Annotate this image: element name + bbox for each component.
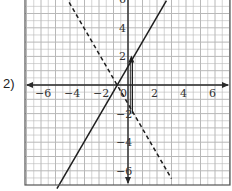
y-tick-label: −6 [116,165,132,178]
x-tick-label: −6 [35,87,51,100]
y-tick-label: 2 [119,50,126,63]
tick-labels: −6−4−20246642−2−4−6 [35,0,216,178]
x-tick-label: 2 [151,87,158,100]
x-axis-left-arrow-icon [26,82,33,88]
y-tick-label: −2 [116,108,132,121]
x-tick-label: −2 [93,87,109,100]
x-axis-right-arrow-icon [222,82,229,88]
y-tick-label: 4 [119,22,126,35]
y-tick-label: 6 [119,0,126,6]
x-tick-label: 6 [209,87,216,100]
coordinate-plane: −6−4−20246642−2−4−6 [0,0,232,191]
y-axis-down-arrow-icon [125,177,131,184]
x-tick-label: 4 [180,87,187,100]
x-tick-label: 0 [120,87,127,100]
y-tick-label: −4 [116,136,132,149]
x-tick-label: −4 [64,87,80,100]
